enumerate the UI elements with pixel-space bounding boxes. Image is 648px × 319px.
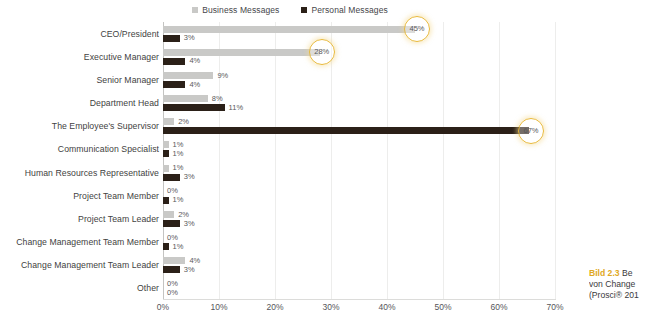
bar-rows: 45%3%28%4%9%4%8%11%2%67%1%1%1%3%0%1%2%3%… [163, 22, 555, 300]
category-label: The Employee's Supervisor [0, 115, 159, 138]
plot-area: 45%3%28%4%9%4%8%11%2%67%1%1%1%3%0%1%2%3%… [163, 22, 555, 300]
category-label: Project Team Leader [0, 207, 159, 230]
category-label: Senior Manager [0, 68, 159, 91]
category-label: Change Management Team Leader [0, 254, 159, 277]
business-bar[interactable] [163, 211, 174, 218]
personal-bar[interactable] [163, 174, 180, 181]
legend-entry[interactable]: Business Messages [192, 5, 279, 15]
business-bar-line: 8% [163, 95, 555, 102]
bar-value: 1% [173, 150, 184, 158]
bar-value: 3% [184, 266, 195, 274]
personal-bar-line: 3% [163, 266, 555, 273]
x-axis-line [163, 299, 556, 300]
business-bar[interactable] [163, 165, 169, 172]
personal-bar-line: 4% [163, 58, 555, 65]
bar-value: 2% [178, 211, 189, 219]
bar-value: 1% [173, 243, 184, 251]
bar-value: 3% [184, 220, 195, 228]
personal-bar[interactable] [163, 197, 169, 204]
x-tick-label: 30% [322, 302, 339, 312]
bar-value: 4% [189, 81, 200, 89]
business-bar[interactable] [163, 49, 320, 56]
personal-bar-line: 1% [163, 243, 555, 250]
bar-row: 2%67% [163, 115, 555, 138]
business-bar-line: 28% [163, 49, 555, 56]
business-bar[interactable] [163, 257, 185, 264]
category-axis-labels: CEO/PresidentExecutive ManagerSenior Man… [0, 22, 159, 300]
business-bar-line: 1% [163, 141, 555, 148]
legend-label: Business Messages [202, 5, 279, 15]
x-tick-label: 0% [157, 302, 169, 312]
business-bar-line: 45% [163, 26, 555, 33]
bar-value: 11% [229, 104, 243, 112]
personal-bar[interactable] [163, 243, 169, 250]
caption-line-3: (Prosci® 201 [589, 290, 648, 301]
category-label: CEO/President [0, 22, 159, 45]
bar-value: 0% [167, 289, 178, 297]
bar-row: 4%3% [163, 254, 555, 277]
personal-bar-line: 1% [163, 150, 555, 157]
caption-line-1-rest: Be [620, 268, 633, 278]
category-label: Department Head [0, 92, 159, 115]
caption-line-2: von Change [589, 279, 648, 290]
personal-bar[interactable] [163, 220, 180, 227]
bar-value: 1% [173, 141, 184, 149]
personal-bar[interactable] [163, 150, 169, 157]
business-bar-line: 4% [163, 257, 555, 264]
bar-value: 1% [173, 164, 184, 172]
bar-row: 1%1% [163, 138, 555, 161]
bar-row: 0%1% [163, 184, 555, 207]
personal-bar[interactable] [163, 81, 185, 88]
personal-bar-line: 4% [163, 81, 555, 88]
personal-bar[interactable] [163, 266, 180, 273]
bar-value: 4% [189, 257, 200, 265]
bar-value: 8% [212, 95, 223, 103]
personal-bar-line: 3% [163, 174, 555, 181]
square-marker-icon [192, 7, 198, 13]
personal-bar[interactable] [163, 58, 185, 65]
personal-bar-line: 0% [163, 289, 555, 296]
bar-value: 0% [167, 187, 178, 195]
personal-bar-line: 3% [163, 220, 555, 227]
category-label: Executive Manager [0, 45, 159, 68]
business-bar-line: 9% [163, 72, 555, 79]
category-label: Change Management Team Member [0, 231, 159, 254]
bar-value: 3% [184, 173, 195, 181]
personal-bar[interactable] [163, 35, 180, 42]
bar-row: 1%3% [163, 161, 555, 184]
business-bar-line: 1% [163, 165, 555, 172]
category-label: Project Team Member [0, 184, 159, 207]
personal-bar[interactable] [163, 104, 225, 111]
bar-value: 9% [217, 72, 228, 80]
x-tick-label: 40% [378, 302, 395, 312]
bar-value: 1% [173, 196, 184, 204]
bar-row: 2%3% [163, 207, 555, 230]
category-label: Other [0, 277, 159, 300]
figure-caption: Bild 2.3 Be von Change (Prosci® 201 [589, 268, 648, 302]
business-bar-line: 2% [163, 118, 555, 125]
x-tick-label: 50% [434, 302, 451, 312]
caption-line-1: Bild 2.3 Be [589, 268, 648, 279]
bar-row: 0%1% [163, 231, 555, 254]
category-label: Communication Specialist [0, 138, 159, 161]
business-bar-line: 0% [163, 280, 555, 287]
x-tick-label: 70% [546, 302, 563, 312]
bar-row: 28%4% [163, 45, 555, 68]
business-bar[interactable] [163, 26, 415, 33]
business-bar-line: 2% [163, 211, 555, 218]
business-bar[interactable] [163, 118, 174, 125]
business-bar[interactable] [163, 141, 169, 148]
bar-row: 8%11% [163, 92, 555, 115]
business-bar[interactable] [163, 72, 213, 79]
legend-label: Personal Messages [311, 5, 387, 15]
x-tick-label: 20% [266, 302, 283, 312]
bar-value: 2% [178, 118, 189, 126]
x-tick-label: 10% [210, 302, 227, 312]
category-label: Human Resources Representative [0, 161, 159, 184]
personal-bar-line: 67% [163, 127, 555, 134]
x-axis-tick-labels: 0%10%20%30%40%50%60%70% [163, 302, 555, 316]
business-bar[interactable] [163, 95, 208, 102]
legend-entry[interactable]: Personal Messages [301, 5, 387, 15]
personal-bar[interactable] [163, 127, 529, 134]
bar-row: 45%3% [163, 22, 555, 45]
